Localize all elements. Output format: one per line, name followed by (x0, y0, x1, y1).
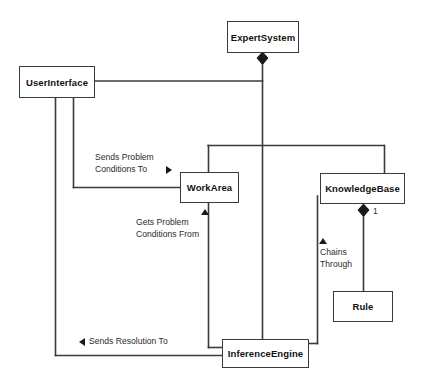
label-line-2: Conditions To (95, 164, 154, 176)
navigation-arrow-up-icon (319, 238, 327, 244)
relationship-label-sends-resolution-to: Sends Resolution To (89, 336, 168, 348)
class-box-inferenceengine[interactable]: InferenceEngine (222, 339, 309, 368)
class-box-workarea[interactable]: WorkArea (180, 172, 239, 203)
relationship-label-sends-problem-conditions-to: Sends Problem Conditions To (95, 152, 154, 175)
label-line-1: Sends Problem (95, 152, 154, 164)
composition-diamond-expertsystem (257, 52, 268, 65)
class-name-inferenceengine: InferenceEngine (228, 348, 303, 359)
class-box-userinterface[interactable]: UserInterface (19, 66, 95, 98)
class-name-userinterface: UserInterface (26, 77, 88, 88)
navigation-arrow-left-icon (79, 338, 85, 346)
relationship-label-gets-problem-conditions-from: Gets Problem Conditions From (136, 217, 199, 240)
multiplicity-knowledgebase-rule: 1 (373, 206, 378, 216)
class-box-expertsystem[interactable]: ExpertSystem (227, 21, 299, 53)
class-name-workarea: WorkArea (187, 182, 233, 193)
class-name-expertsystem: ExpertSystem (231, 32, 296, 43)
navigation-arrow-up-icon (201, 209, 209, 215)
class-box-knowledgebase[interactable]: KnowledgeBase (320, 173, 405, 204)
label-line-1: Chains (320, 247, 352, 259)
relationship-label-chains-through: Chains Through (320, 247, 352, 270)
label-line-2: Conditions From (136, 229, 199, 241)
composition-diamond-knowledgebase (358, 204, 369, 217)
navigation-arrow-right-icon (166, 166, 172, 174)
uml-class-diagram: ExpertSystem UserInterface WorkArea Know… (0, 0, 424, 381)
class-box-rule[interactable]: Rule (333, 291, 393, 322)
label-line-2: Through (320, 259, 352, 271)
label-line-1: Sends Resolution To (89, 336, 168, 348)
class-name-knowledgebase: KnowledgeBase (325, 183, 400, 194)
class-name-rule: Rule (353, 301, 374, 312)
label-line-1: Gets Problem (136, 217, 199, 229)
